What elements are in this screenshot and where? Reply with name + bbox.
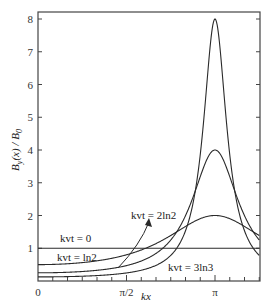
chart-plot: 123456780π/2π kvt = 0 kvt = ln2 kvt = 2l…: [0, 0, 268, 306]
x-tick-label: π/2: [119, 286, 133, 298]
x-tick-label: π: [212, 286, 218, 298]
svg-text:By(x) / B0: By(x) / B0: [9, 129, 24, 171]
label-kvt-2ln2: kvt = 2ln2: [131, 209, 176, 221]
label-kvt-0: kvt = 0: [60, 232, 92, 244]
y-tick-label: 5: [28, 111, 34, 123]
arrow-2ln2: [118, 218, 152, 268]
y-tick-label: 3: [28, 177, 34, 189]
y-tick-label: 2: [28, 210, 34, 222]
label-kvt-3ln3: kvt = 3ln3: [168, 261, 214, 273]
y-tick-label: 8: [28, 13, 34, 25]
y-tick-label: 4: [28, 144, 34, 156]
y-tick-label: 1: [28, 242, 34, 254]
label-kvt-ln2: kvt = ln2: [57, 251, 97, 263]
y-tick-label: 7: [28, 46, 34, 58]
x-tick-label: 0: [35, 286, 41, 298]
y-axis-title: By(x) / B0: [9, 129, 24, 171]
y-tick-label: 6: [28, 79, 34, 91]
x-axis-title: kx: [141, 290, 151, 302]
